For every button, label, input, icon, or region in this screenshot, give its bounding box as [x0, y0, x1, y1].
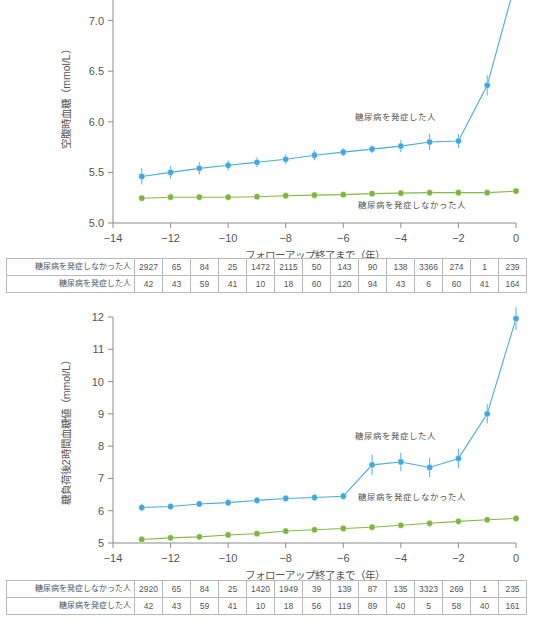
- data-point: [196, 194, 202, 200]
- table-cell: 59: [191, 276, 219, 293]
- data-point: [139, 195, 145, 201]
- y-tick-label: 12: [92, 311, 104, 323]
- table-cell: 94: [359, 276, 387, 293]
- data-point: [455, 190, 461, 196]
- data-point: [311, 152, 317, 158]
- table-cell: 39: [303, 581, 331, 598]
- table-cell: 161: [499, 598, 527, 615]
- x-tick-label: −12: [161, 232, 180, 244]
- data-point: [398, 459, 404, 465]
- two-hour-glucose-panel: 56789101112−14−12−10−8−6−4−20糖負荷後2時間血糖値（…: [0, 305, 533, 627]
- series-line-incident: [142, 0, 516, 176]
- data-point: [311, 494, 317, 500]
- fasting-glucose-panel: 5.05.56.06.57.0−14−12−10−8−6−4−20空腹時血糖（m…: [0, 0, 533, 300]
- table-cell: 2920: [135, 581, 163, 598]
- table-cell: 235: [499, 581, 527, 598]
- data-point: [484, 411, 490, 417]
- table-cell: 89: [359, 598, 387, 615]
- risk-table-2: 糖尿病を発症しなかった人2920658425142019493913987135…: [6, 580, 527, 615]
- data-point: [484, 517, 490, 523]
- table-cell: 18: [275, 598, 303, 615]
- table-cell: 139: [331, 581, 359, 598]
- table-cell: 41: [471, 276, 499, 293]
- table-cell: 40: [471, 598, 499, 615]
- data-point: [340, 525, 346, 531]
- table-cell: 58: [443, 598, 471, 615]
- table-row: 糖尿病を発症した人42435941101860120944366041164: [7, 276, 527, 293]
- data-point: [196, 501, 202, 507]
- data-point: [167, 169, 173, 175]
- series-line-incident: [142, 319, 516, 508]
- table-row: 糖尿病を発症しなかった人2927658425147221155014390138…: [7, 259, 527, 276]
- y-tick-label: 5.5: [89, 166, 104, 178]
- x-tick-label: 0: [513, 232, 519, 244]
- table-row-label: 糖尿病を発症しなかった人: [7, 581, 135, 598]
- x-tick-label: −10: [219, 232, 238, 244]
- data-point: [254, 497, 260, 503]
- data-point: [283, 193, 289, 199]
- data-point: [196, 165, 202, 171]
- data-point: [225, 532, 231, 538]
- data-point: [398, 522, 404, 528]
- two-hour-glucose-plot: 56789101112−14−12−10−8−6−4−20糖負荷後2時間血糖値（…: [0, 305, 533, 580]
- data-point: [455, 455, 461, 461]
- data-point: [225, 162, 231, 168]
- data-point: [369, 191, 375, 197]
- data-point: [167, 535, 173, 541]
- data-point: [427, 520, 433, 526]
- data-point: [369, 462, 375, 468]
- x-tick-label: −8: [279, 232, 292, 244]
- table-cell: 43: [163, 598, 191, 615]
- table-row-label: 糖尿病を発症した人: [7, 598, 135, 615]
- data-point: [513, 316, 519, 322]
- data-point: [369, 524, 375, 530]
- x-tick-label: −14: [104, 552, 123, 564]
- table-cell: 50: [303, 259, 331, 276]
- y-tick-label: 9: [98, 408, 104, 420]
- x-tick-label: −8: [279, 552, 292, 564]
- table-cell: 135: [387, 581, 415, 598]
- data-point: [398, 143, 404, 149]
- table-cell: 1420: [247, 581, 275, 598]
- table-cell: 6: [415, 276, 443, 293]
- data-point: [283, 156, 289, 162]
- risk-table-1: 糖尿病を発症しなかった人2927658425147221155014390138…: [6, 258, 527, 293]
- fasting-glucose-plot: 5.05.56.06.57.0−14−12−10−8−6−4−20空腹時血糖（m…: [0, 0, 533, 258]
- data-point: [254, 159, 260, 165]
- series-annotation-incident: 糖尿病を発症した人: [355, 431, 436, 441]
- x-tick-label: −2: [452, 232, 465, 244]
- data-point: [283, 495, 289, 501]
- data-point: [311, 192, 317, 198]
- y-axis-title: 糖負荷後2時間血糖値（mmol/L）: [60, 355, 72, 505]
- data-point: [196, 534, 202, 540]
- table-cell: 84: [191, 259, 219, 276]
- y-tick-label: 7: [98, 472, 104, 484]
- data-point: [513, 515, 519, 521]
- table-cell: 3366: [415, 259, 443, 276]
- x-tick-label: −2: [452, 552, 465, 564]
- y-tick-label: 8: [98, 440, 104, 452]
- table-cell: 40: [387, 598, 415, 615]
- table-cell: 120: [331, 276, 359, 293]
- table-cell: 43: [163, 276, 191, 293]
- table-cell: 10: [247, 276, 275, 293]
- table-cell: 41: [219, 598, 247, 615]
- table-cell: 164: [499, 276, 527, 293]
- table-cell: 138: [387, 259, 415, 276]
- y-axis-title: 空腹時血糖（mmol/L）: [60, 44, 72, 148]
- table-row-label: 糖尿病を発症した人: [7, 276, 135, 293]
- table-cell: 60: [443, 276, 471, 293]
- series-annotation-incident: 糖尿病を発症した人: [355, 112, 436, 122]
- table-cell: 2115: [275, 259, 303, 276]
- x-tick-label: −14: [104, 232, 123, 244]
- table-cell: 65: [163, 581, 191, 598]
- table-cell: 41: [219, 276, 247, 293]
- y-tick-label: 5.0: [89, 217, 104, 229]
- table-cell: 60: [303, 276, 331, 293]
- table-cell: 10: [247, 598, 275, 615]
- data-point: [484, 82, 490, 88]
- table-cell: 65: [163, 259, 191, 276]
- y-tick-label: 5: [98, 537, 104, 549]
- table-cell: 1949: [275, 581, 303, 598]
- data-point: [283, 528, 289, 534]
